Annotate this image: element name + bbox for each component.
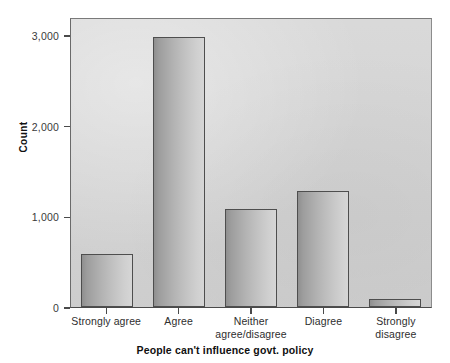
x-tick-mark — [106, 308, 107, 314]
bar-slot — [359, 19, 431, 307]
bar-slot — [215, 19, 287, 307]
x-tick-label-strongly-disagree: Strongly disagree — [360, 315, 432, 340]
bars-container — [71, 19, 431, 307]
y-tick-label: 1,000 — [32, 211, 64, 223]
x-tick-mark — [395, 308, 396, 314]
x-tick-label-line: Strongly agree — [71, 315, 141, 327]
x-tick-label-line: agree/disagree — [215, 328, 287, 341]
x-tick-label-line: Agree — [164, 315, 193, 327]
x-tick-mark — [250, 308, 251, 314]
x-tick-label-strongly-agree: Strongly agree — [70, 315, 142, 340]
bar-slot — [287, 19, 359, 307]
x-axis-tick-labels: Strongly agree Agree Neither agree/disag… — [70, 315, 432, 340]
bar-slot — [71, 19, 143, 307]
x-tick-slot — [215, 308, 287, 314]
x-tick-label-diagree: Diagree — [287, 315, 359, 340]
bar-chart-figure: 3,000 2,000 1,000 0 Count Strongly agree… — [0, 0, 450, 363]
x-tick-label-line: Diagree — [305, 315, 342, 327]
y-tick-mark — [64, 217, 70, 218]
bar-agree[interactable] — [153, 37, 205, 307]
x-axis-ticks — [70, 308, 432, 314]
y-tick-mark — [64, 35, 70, 36]
x-axis-title: People can't influence govt. policy — [0, 344, 450, 356]
x-tick-label-line: Neither — [234, 315, 269, 327]
x-tick-slot — [142, 308, 214, 314]
x-tick-slot — [360, 308, 432, 314]
y-tick-mark — [64, 126, 70, 127]
x-tick-slot — [70, 308, 142, 314]
plot-area — [70, 18, 432, 308]
y-tick-label: 2,000 — [32, 121, 64, 133]
x-tick-label-neither: Neither agree/disagree — [215, 315, 287, 340]
x-tick-mark — [178, 308, 179, 314]
y-tick-label: 0 — [53, 302, 64, 314]
bar-diagree[interactable] — [297, 191, 349, 307]
x-tick-mark — [323, 308, 324, 314]
x-tick-label-line: Strongly disagree — [375, 315, 416, 340]
y-axis-title: Count — [18, 135, 29, 153]
bar-slot — [143, 19, 215, 307]
x-tick-label-agree: Agree — [142, 315, 214, 340]
x-tick-slot — [287, 308, 359, 314]
bar-neither-agree-disagree[interactable] — [225, 209, 277, 307]
bar-strongly-disagree[interactable] — [369, 299, 421, 307]
bar-strongly-agree[interactable] — [81, 254, 133, 307]
y-tick-label: 3,000 — [32, 30, 64, 42]
